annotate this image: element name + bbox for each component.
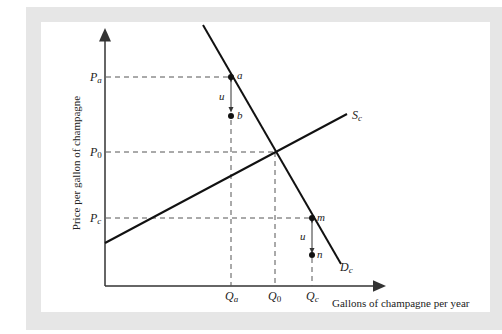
label-a: a [237, 69, 243, 81]
label-u-upper: u [219, 90, 225, 102]
price-label-p0: P0 [89, 145, 102, 160]
point-a [228, 74, 234, 80]
point-n [309, 252, 315, 258]
supply-demand-diagram: a b m n u u Pa P0 Pc Qa Q0 Qc Sc Dc Gall… [0, 0, 502, 334]
supply-curve [105, 114, 347, 243]
label-n: n [317, 248, 323, 260]
quantity-label-q0: Q0 [268, 289, 282, 304]
supply-label: Sc [352, 108, 362, 123]
demand-curve [203, 25, 341, 264]
price-label-pa: Pa [89, 70, 102, 85]
y-axis-label: Price per gallon of champagne [70, 96, 82, 231]
x-axis-label: Gallons of champagne per year [332, 297, 470, 309]
point-b [228, 113, 234, 119]
quantity-label-qc: Qc [306, 289, 319, 304]
label-m: m [317, 211, 325, 223]
demand-label: Dc [339, 260, 353, 275]
label-u-lower: u [300, 230, 306, 242]
point-m [309, 215, 315, 221]
price-label-pc: Pc [89, 211, 101, 226]
quantity-label-qa: Qa [225, 289, 239, 304]
label-b: b [237, 109, 243, 121]
